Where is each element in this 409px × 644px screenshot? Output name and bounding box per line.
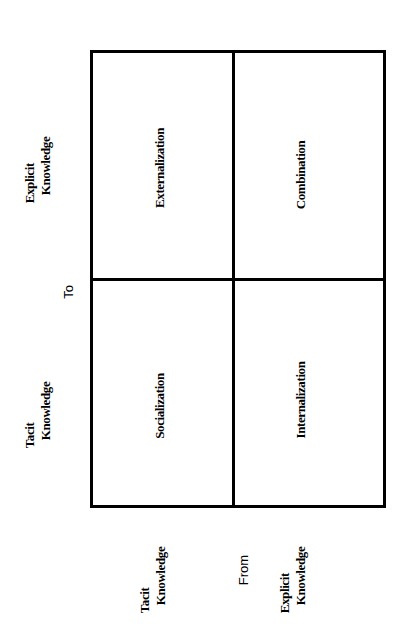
- to-axis-label-tacit-knowledge: Tacit Knowledge: [22, 382, 54, 449]
- horizontal-divider: [93, 278, 383, 281]
- to-tacit-line1: Tacit: [22, 382, 38, 449]
- to-explicit-line1: Explicit: [22, 137, 38, 204]
- cell-combination: Combination: [293, 141, 309, 210]
- to-axis-label-explicit-knowledge: Explicit Knowledge: [22, 137, 54, 204]
- knowledge-matrix-grid: [90, 50, 386, 508]
- from-axis-label-tacit-knowledge: Tacit Knowledge: [137, 547, 169, 614]
- from-axis-title: From: [236, 555, 251, 585]
- vertical-divider: [232, 53, 235, 505]
- from-explicit-line1: Explicit: [277, 547, 293, 614]
- from-tacit-line1: Tacit: [137, 547, 153, 614]
- cell-socialization: Socialization: [152, 373, 168, 439]
- from-tacit-line2: Knowledge: [153, 547, 169, 614]
- cell-internalization: Internalization: [293, 361, 309, 438]
- cell-externalization: Externalization: [152, 128, 168, 208]
- from-explicit-line2: Knowledge: [293, 547, 309, 614]
- to-tacit-line2: Knowledge: [38, 382, 54, 449]
- to-explicit-line2: Knowledge: [38, 137, 54, 204]
- to-axis-title: To: [61, 285, 76, 299]
- from-axis-label-explicit-knowledge: Explicit Knowledge: [277, 547, 309, 614]
